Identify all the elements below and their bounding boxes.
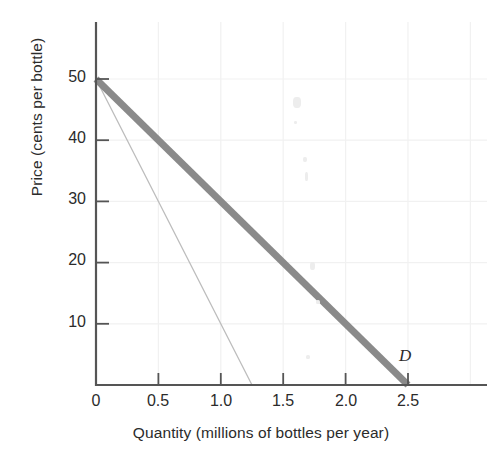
y-tick-label-10: 10 (52, 313, 86, 331)
x-tick-label-1point0: 1.0 (199, 392, 243, 410)
y-tick-label-40: 40 (52, 129, 86, 147)
series-faint-underlying-line (96, 79, 252, 385)
x-tick-label-2point5: 2.5 (386, 392, 430, 410)
demand-curve-figure: 50 40 30 20 10 0 0.5 1.0 1.5 2.0 2.5 D P… (0, 0, 487, 456)
demand-curve-label: D (399, 346, 411, 366)
scan-artifact (316, 300, 320, 304)
gridlines-horizontal (96, 79, 487, 324)
gridlines-vertical (158, 22, 470, 385)
y-axis-ticks (96, 79, 109, 324)
scan-artifact (306, 355, 310, 359)
y-tick-label-30: 30 (52, 190, 86, 208)
x-axis-ticks (158, 373, 408, 385)
scan-artifact (310, 262, 315, 270)
x-tick-label-0: 0 (74, 392, 118, 410)
x-axis-title: Quantity (millions of bottles per year) (96, 424, 426, 442)
y-tick-label-20: 20 (52, 251, 86, 269)
y-tick-label-50: 50 (52, 68, 86, 86)
scan-artifact (294, 121, 297, 124)
scan-artifact (305, 172, 308, 181)
x-tick-label-0point5: 0.5 (136, 392, 180, 410)
scan-artifact (303, 157, 307, 162)
scan-artifact (293, 97, 301, 108)
y-axis-title: Price (cents per bottle) (28, 2, 46, 232)
x-tick-label-2point0: 2.0 (324, 392, 368, 410)
series-demand-curve-D (96, 79, 408, 385)
x-tick-label-1point5: 1.5 (261, 392, 305, 410)
